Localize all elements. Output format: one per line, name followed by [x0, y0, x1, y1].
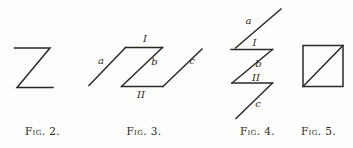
fig3-drawing — [89, 48, 202, 87]
fig4-label-a: a — [246, 16, 252, 26]
fig2-drawing — [15, 48, 54, 88]
fig4-label-b: b — [255, 59, 261, 69]
fig3-caption: Fig. 3. — [126, 125, 161, 136]
fig4-caption: Fig. 4. — [240, 126, 275, 137]
fig2-caption: Fig. 2. — [25, 125, 60, 136]
fig5-caption: Fig. 5. — [301, 125, 336, 136]
fig3-label-II: II — [137, 90, 145, 100]
fig5-diagonal — [303, 46, 343, 87]
fig3-label-a: a — [98, 56, 104, 66]
fig3-segment-a — [89, 48, 126, 86]
fig3-segment-c — [163, 49, 202, 87]
fig2-z-zigzag — [15, 48, 54, 88]
fig3-label-c: c — [189, 56, 195, 66]
figure-plate: a I b II c a I b II c Fig. 2. Fig. 3. Fi… — [0, 0, 353, 148]
fig4-label-II: II — [252, 73, 260, 83]
fig3-segment-b — [122, 48, 163, 87]
fig4-label-c: c — [255, 99, 261, 109]
fig3-label-I: I — [143, 34, 147, 44]
fig4-segment-a — [236, 9, 282, 48]
fig5-drawing — [303, 46, 343, 87]
fig4-label-I: I — [253, 38, 257, 48]
fig3-label-b: b — [151, 57, 157, 67]
